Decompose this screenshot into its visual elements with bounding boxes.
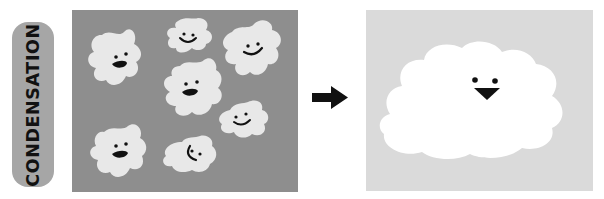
after-panel-cloud <box>366 10 593 191</box>
before-panel-water-vapor <box>72 10 298 192</box>
right-arrow-icon <box>311 85 349 110</box>
condensation-label: CONDENSATION <box>23 23 43 186</box>
condensation-label-pill: CONDENSATION <box>12 22 54 187</box>
